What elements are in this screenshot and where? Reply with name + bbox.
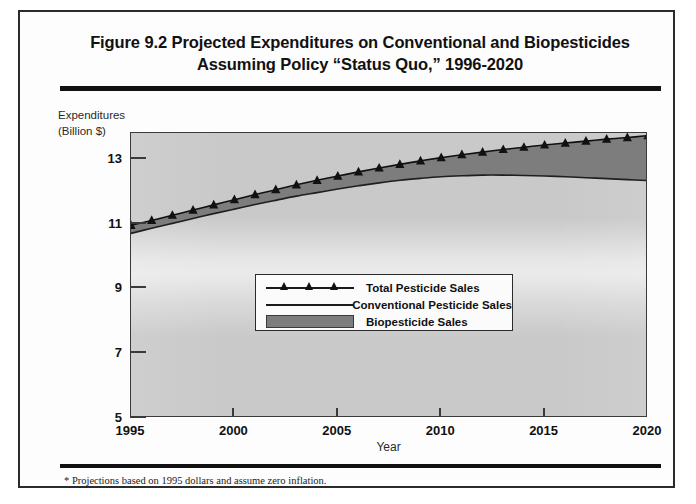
y-axis-title-line-1: Expenditures (58, 108, 125, 124)
footnote-divider-rule (60, 464, 661, 468)
chart-legend: Total Pesticide Sales Conventional Pesti… (255, 274, 513, 331)
conventional-line (131, 175, 647, 233)
legend-label-biopesticide: Biopesticide Sales (366, 316, 468, 328)
title-divider-rule (60, 86, 661, 91)
legend-key-biopesticide-swatch (266, 315, 354, 328)
legend-triangle-icon (330, 282, 338, 290)
x-tick-mark (232, 408, 234, 417)
figure-title-line-1: Figure 9.2 Projected Expenditures on Con… (60, 32, 660, 54)
legend-item-biopesticide: Biopesticide Sales (256, 314, 512, 329)
legend-key-conventional-line (266, 298, 340, 311)
figure-title-line-2: Assuming Policy “Status Quo,” 1996-2020 (60, 54, 660, 76)
y-tick-label: 13 (82, 150, 122, 165)
x-tick-mark (439, 408, 441, 417)
x-axis-title: Year (130, 440, 647, 454)
figure-frame: Figure 9.2 Projected Expenditures on Con… (18, 10, 675, 488)
y-tick-label: 9 (82, 280, 122, 295)
figure-footnote: * Projections based on 1995 dollars and … (64, 475, 326, 486)
biopesticide-band (131, 136, 647, 234)
y-tick-mark (130, 286, 146, 288)
x-tick-label: 2010 (410, 423, 470, 438)
y-axis-title-line-2: (Billion $) (58, 124, 125, 140)
legend-triangle-icon (280, 282, 288, 290)
x-tick-label: 2020 (617, 423, 677, 438)
y-tick-mark (130, 157, 146, 159)
x-tick-mark (543, 408, 545, 417)
legend-label-conventional: Conventional Pesticide Sales (352, 299, 512, 311)
legend-line-conventional (266, 304, 354, 306)
legend-key-total-line-markers (266, 281, 354, 294)
x-tick-mark (336, 408, 338, 417)
y-tick-mark (130, 351, 146, 353)
y-tick-label: 11 (82, 215, 122, 230)
y-tick-label: 7 (82, 345, 122, 360)
legend-triangle-icon (305, 282, 313, 290)
legend-label-total: Total Pesticide Sales (366, 282, 480, 294)
x-tick-label: 2000 (203, 423, 263, 438)
y-tick-mark (130, 222, 146, 224)
y-axis-title: Expenditures (Billion $) (58, 108, 125, 140)
x-tick-label: 1995 (100, 423, 160, 438)
figure-title: Figure 9.2 Projected Expenditures on Con… (60, 32, 660, 76)
legend-item-total: Total Pesticide Sales (256, 280, 512, 295)
legend-swatch-biopesticide (266, 315, 354, 328)
legend-item-conventional: Conventional Pesticide Sales (256, 297, 512, 312)
x-tick-label: 2005 (307, 423, 367, 438)
y-tick-mark (130, 416, 146, 418)
x-tick-label: 2015 (514, 423, 574, 438)
